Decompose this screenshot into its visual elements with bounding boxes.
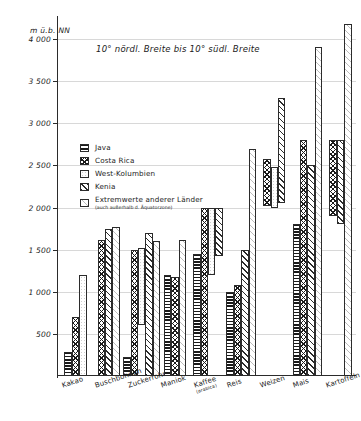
legend-swatch-icon bbox=[80, 183, 89, 191]
legend-item-note: (auch außerhalb d. Äquatorzone) bbox=[95, 205, 203, 210]
y-axis-tick-label: 4 000 bbox=[29, 35, 51, 44]
y-axis-tick bbox=[53, 334, 58, 335]
legend-item-label: Costa Rica bbox=[95, 156, 135, 165]
x-axis-tick-label: Kaffee(arabica) bbox=[193, 375, 219, 394]
bar bbox=[153, 241, 160, 376]
gridline bbox=[58, 123, 356, 124]
y-axis-tick-label: 1 500 bbox=[29, 245, 51, 254]
bar bbox=[138, 248, 145, 325]
y-axis-tick-label: 3 000 bbox=[29, 119, 51, 128]
bar bbox=[241, 250, 248, 376]
bar bbox=[98, 240, 105, 376]
bar bbox=[105, 229, 112, 376]
x-axis-tick-label: Mais bbox=[292, 377, 310, 390]
y-axis-tick bbox=[53, 292, 58, 293]
bar bbox=[271, 167, 278, 207]
y-axis-line bbox=[57, 16, 58, 378]
legend-swatch-icon bbox=[80, 144, 89, 152]
bar bbox=[171, 277, 178, 376]
bar bbox=[263, 159, 270, 206]
legend-item-label: Kenia bbox=[95, 182, 115, 191]
legend-swatch-icon bbox=[80, 157, 89, 165]
legend-item-label: West-Kolumbien bbox=[95, 169, 155, 178]
chart-legend: JavaCosta RicaWest-KolumbienKeniaExtremw… bbox=[80, 143, 203, 210]
gridline bbox=[58, 81, 356, 82]
legend-item-2[interactable]: West-Kolumbien bbox=[80, 169, 203, 178]
legend-swatch-icon bbox=[80, 199, 89, 207]
y-axis-tick bbox=[53, 81, 58, 82]
y-axis-tick-label: 500 bbox=[36, 329, 51, 338]
y-axis-tick-label: 3 500 bbox=[29, 77, 51, 86]
legend-item-label: Extremwerte anderer Länder(auch außerhal… bbox=[95, 195, 203, 210]
bar bbox=[300, 140, 307, 376]
bar bbox=[72, 317, 79, 376]
x-axis-tick-note: (arabica) bbox=[195, 382, 218, 394]
legend-item-0[interactable]: Java bbox=[80, 143, 203, 152]
y-axis-tick-label: 1 000 bbox=[29, 287, 51, 296]
x-axis-tick-label: Weizen bbox=[259, 374, 286, 390]
bar bbox=[145, 233, 152, 376]
legend-item-4[interactable]: Extremwerte anderer Länder(auch außerhal… bbox=[80, 195, 203, 210]
bar bbox=[337, 140, 344, 224]
bar bbox=[193, 254, 200, 376]
y-axis-tick-label: 2 500 bbox=[29, 161, 51, 170]
bar bbox=[208, 208, 215, 275]
bar bbox=[278, 98, 285, 203]
legend-item-label: Java bbox=[95, 143, 111, 152]
bar bbox=[179, 240, 186, 376]
y-axis-tick bbox=[53, 39, 58, 40]
y-axis-tick bbox=[53, 250, 58, 251]
bar bbox=[329, 140, 336, 216]
legend-item-3[interactable]: Kenia bbox=[80, 182, 203, 191]
y-axis-tick-label: 2 000 bbox=[29, 203, 51, 212]
bar bbox=[215, 208, 222, 256]
chart-root: m ü.b. NN 10° nördl. Breite bis 10° südl… bbox=[0, 0, 361, 421]
gridline bbox=[58, 39, 356, 40]
bar bbox=[164, 275, 171, 376]
bar bbox=[201, 208, 208, 376]
y-axis-tick bbox=[53, 208, 58, 209]
x-axis-tick-label: Kakao bbox=[61, 375, 84, 389]
bar bbox=[307, 165, 314, 376]
bar bbox=[64, 352, 71, 376]
bar bbox=[112, 227, 119, 376]
bar bbox=[226, 292, 233, 376]
bar bbox=[249, 149, 256, 376]
x-axis-tick-label: Reis bbox=[226, 377, 243, 389]
y-axis-tick bbox=[53, 165, 58, 166]
y-axis-tick bbox=[53, 123, 58, 124]
bar bbox=[234, 285, 241, 376]
bar bbox=[79, 275, 86, 376]
bar bbox=[315, 47, 322, 376]
bar bbox=[131, 250, 138, 376]
bar bbox=[293, 224, 300, 376]
legend-item-1[interactable]: Costa Rica bbox=[80, 156, 203, 165]
legend-swatch-icon bbox=[80, 170, 89, 178]
bar bbox=[344, 24, 351, 376]
